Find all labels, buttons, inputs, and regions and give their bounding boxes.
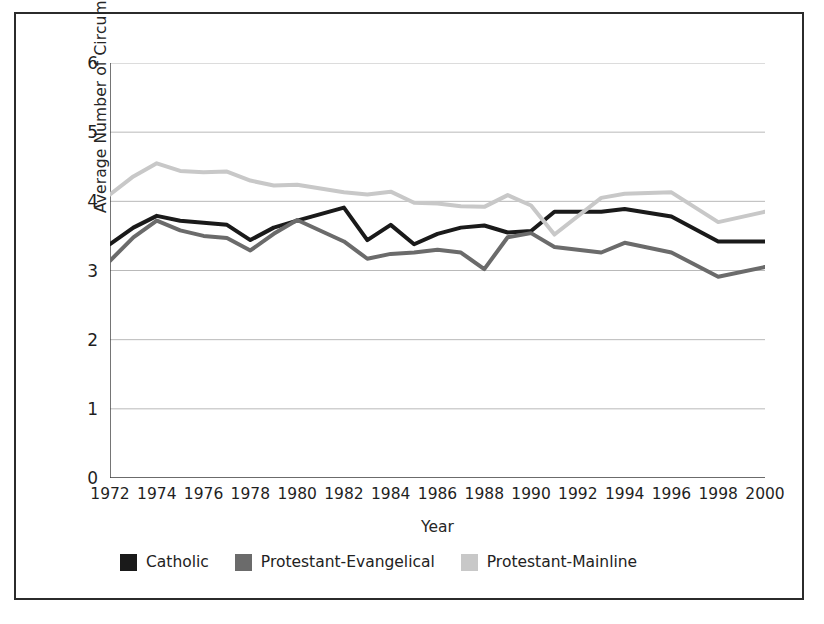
x-tick-label: 1986 bbox=[418, 485, 457, 503]
legend-item: Protestant-Mainline bbox=[461, 553, 637, 571]
chart-legend: CatholicProtestant-EvangelicalProtestant… bbox=[120, 553, 637, 571]
x-tick-label: 1978 bbox=[231, 485, 270, 503]
x-tick-label: 1988 bbox=[465, 485, 504, 503]
line-chart-svg bbox=[110, 63, 765, 478]
legend-swatch-icon bbox=[235, 554, 252, 571]
x-tick-label: 1972 bbox=[90, 485, 129, 503]
x-tick-label: 1992 bbox=[558, 485, 597, 503]
legend-swatch-icon bbox=[120, 554, 137, 571]
x-tick-label: 1980 bbox=[277, 485, 316, 503]
x-tick-label: 1984 bbox=[371, 485, 410, 503]
legend-label: Protestant-Mainline bbox=[487, 553, 637, 571]
x-tick-label: 1974 bbox=[137, 485, 176, 503]
y-tick-label: 3 bbox=[87, 261, 98, 281]
y-tick-label: 2 bbox=[87, 330, 98, 350]
series-line-catholic bbox=[110, 208, 765, 245]
x-tick-label: 1990 bbox=[511, 485, 550, 503]
figure-container: 6543210 19721974197619781980198219841986… bbox=[0, 0, 824, 624]
x-tick-label: 1976 bbox=[184, 485, 223, 503]
x-tick-label: 1998 bbox=[698, 485, 737, 503]
series-line-protestant-evangelical bbox=[110, 220, 765, 277]
legend-label: Protestant-Evangelical bbox=[261, 553, 435, 571]
x-axis-title: Year bbox=[110, 518, 765, 536]
legend-label: Catholic bbox=[146, 553, 209, 571]
chart-plot-area: 6543210 19721974197619781980198219841986… bbox=[110, 63, 765, 478]
y-tick-label: 1 bbox=[87, 399, 98, 419]
x-tick-label: 1982 bbox=[324, 485, 363, 503]
x-tick-label: 1994 bbox=[605, 485, 644, 503]
series-lines bbox=[110, 163, 765, 276]
x-tick-label: 1996 bbox=[652, 485, 691, 503]
x-tick-label: 2000 bbox=[745, 485, 784, 503]
legend-item: Catholic bbox=[120, 553, 209, 571]
legend-item: Protestant-Evangelical bbox=[235, 553, 435, 571]
legend-swatch-icon bbox=[461, 554, 478, 571]
y-axis-title: Average Number of Circumstances Legal bbox=[92, 0, 110, 213]
